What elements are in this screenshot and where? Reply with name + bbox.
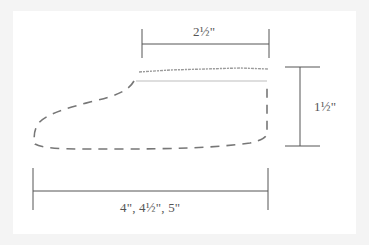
bottom-width-label: 4", 4½", 5" xyxy=(120,200,180,216)
top-width-label: 2½" xyxy=(193,24,215,40)
schematic-drawing xyxy=(0,0,369,245)
slipper-outline-dashed xyxy=(34,81,267,149)
top-edge-line xyxy=(139,68,268,72)
height-label: 1½" xyxy=(314,99,336,115)
